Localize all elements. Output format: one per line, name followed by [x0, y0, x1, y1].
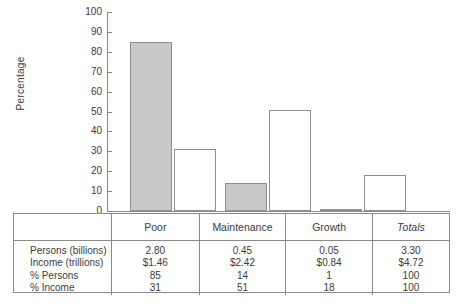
bar-chart: Percentage 100 90 80 70 60 50 40 30 20 1… — [0, 0, 463, 214]
row-label-income-trillions: Income (trillions) — [14, 257, 112, 270]
y-tick-label: 80 — [76, 47, 102, 57]
row-label-persons-billions: Persons (billions) — [14, 240, 112, 257]
y-axis-tick-labels: 100 90 80 70 60 50 40 30 20 10 0 — [76, 0, 102, 214]
table-header-maintenance: Maintenance — [199, 214, 286, 240]
y-tick-label: 40 — [76, 126, 102, 136]
cell-value: 1 — [286, 270, 373, 283]
bar-poor-income — [174, 149, 216, 211]
cell-value: 0.45 — [199, 240, 286, 257]
cell-value: 51 — [199, 282, 286, 295]
y-tick-label: 50 — [76, 107, 102, 117]
y-tick-label: 100 — [76, 7, 102, 17]
cell-value: $4.72 — [372, 257, 449, 270]
table-row: % Income 31 51 18 100 — [14, 282, 449, 295]
row-label-percent-persons: % Persons — [14, 270, 112, 283]
y-tick-label: 20 — [76, 166, 102, 176]
table-row: Persons (billions) 2.80 0.45 0.05 3.30 — [14, 240, 449, 257]
bar-maintenance-income — [269, 110, 311, 211]
cell-value: $0.84 — [286, 257, 373, 270]
cell-value: 14 — [199, 270, 286, 283]
cell-value: 0.05 — [286, 240, 373, 257]
table-header-totals: Totals — [372, 214, 449, 240]
cell-value: 31 — [112, 282, 199, 295]
bar-poor-persons — [130, 42, 172, 211]
table-row: % Persons 85 14 1 100 — [14, 270, 449, 283]
cell-value: 100 — [372, 270, 449, 283]
table-header-blank — [14, 214, 112, 240]
table-header-poor: Poor — [112, 214, 199, 240]
data-table: Poor Maintenance Growth Totals Persons (… — [13, 213, 450, 293]
table-row: Income (trillions) $1.46 $2.42 $0.84 $4.… — [14, 257, 449, 270]
row-label-percent-income: % Income — [14, 282, 112, 295]
cell-value: $1.46 — [112, 257, 199, 270]
table-header-row: Poor Maintenance Growth Totals — [14, 214, 449, 240]
y-tick-label: 60 — [76, 87, 102, 97]
cell-value: 3.30 — [372, 240, 449, 257]
bar-maintenance-persons — [225, 183, 267, 211]
table-header-growth: Growth — [286, 214, 373, 240]
cell-value: 2.80 — [112, 240, 199, 257]
y-tick-label: 30 — [76, 146, 102, 156]
cell-value: 18 — [286, 282, 373, 295]
x-axis-line — [107, 211, 450, 212]
cell-value: 85 — [112, 270, 199, 283]
cell-value: 100 — [372, 282, 449, 295]
bar-growth-persons — [320, 209, 362, 211]
y-tick-label: 70 — [76, 67, 102, 77]
bar-growth-income — [364, 175, 406, 211]
plot-area — [108, 12, 450, 211]
y-tick-label: 10 — [76, 186, 102, 196]
y-axis-title: Percentage — [15, 34, 26, 134]
chart-page: Percentage 100 90 80 70 60 50 40 30 20 1… — [0, 0, 463, 306]
y-tick-label: 90 — [76, 27, 102, 37]
cell-value: $2.42 — [199, 257, 286, 270]
